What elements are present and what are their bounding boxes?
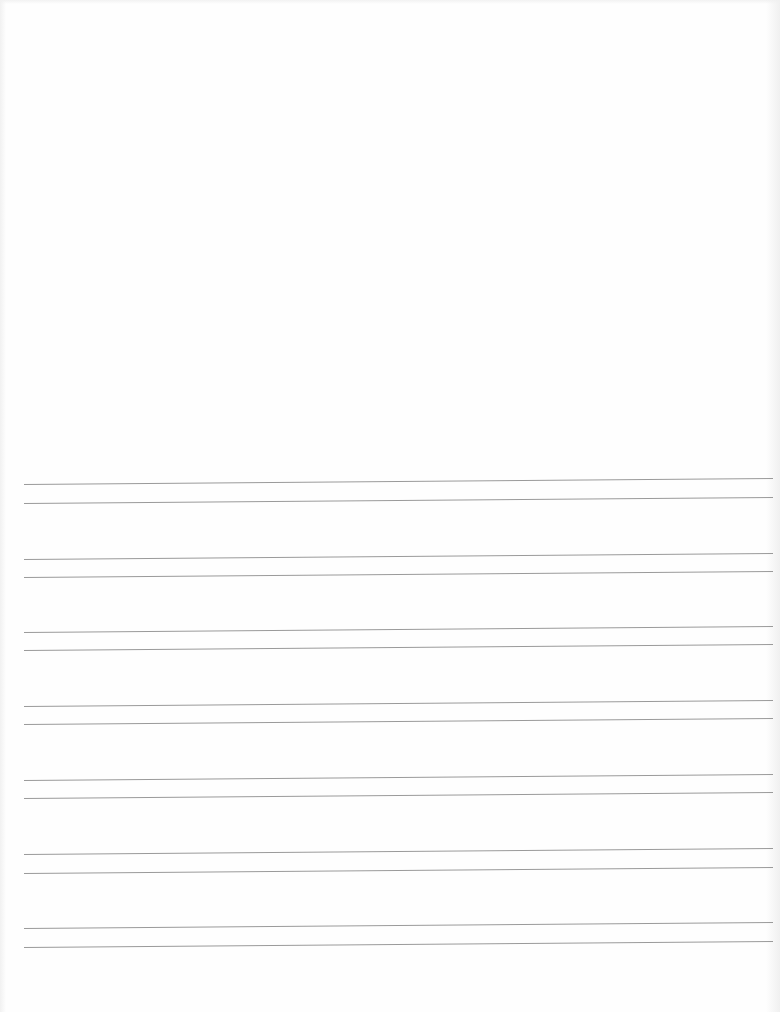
writing-line-pair: [24, 775, 773, 799]
writing-line-top: [24, 923, 773, 929]
writing-line-bottom: [24, 498, 773, 504]
writing-line-top: [24, 701, 773, 707]
writing-line-pair: [24, 554, 773, 578]
writing-line-bottom: [24, 793, 773, 799]
ruled-lines: [0, 0, 780, 1012]
ruled-paper-page: [0, 0, 780, 1012]
writing-line-bottom: [24, 645, 773, 651]
writing-line-bottom: [24, 942, 773, 948]
writing-line-bottom: [24, 572, 773, 578]
writing-line-bottom: [24, 868, 773, 874]
writing-line-top: [24, 849, 773, 855]
writing-line-top: [24, 775, 773, 781]
writing-line-top: [24, 479, 773, 485]
writing-line-pair: [24, 701, 773, 725]
writing-line-pair: [24, 479, 773, 504]
writing-line-pair: [24, 627, 773, 651]
writing-line-top: [24, 554, 773, 560]
writing-line-pair: [24, 849, 773, 874]
writing-line-pair: [24, 923, 773, 948]
writing-line-top: [24, 627, 773, 633]
writing-line-bottom: [24, 719, 773, 725]
